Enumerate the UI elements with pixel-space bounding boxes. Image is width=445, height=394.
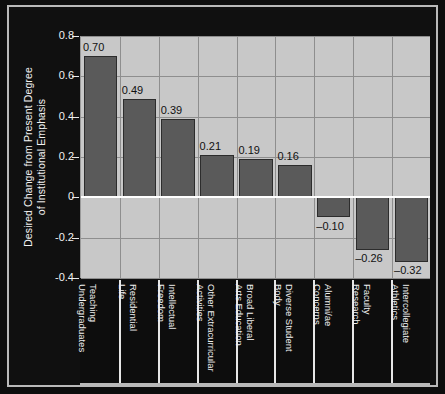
category-label-line: Life <box>117 284 128 384</box>
y-axis-tick-label: 0.8 <box>34 30 74 41</box>
category-label-line: Broad Liberal <box>245 284 256 384</box>
bar[interactable] <box>395 197 428 262</box>
bar-value-label: 0.16 <box>277 151 298 162</box>
category-label-cell: TeachingUndergraduates <box>80 280 119 383</box>
category-label-line: Undergraduates <box>77 284 88 384</box>
category-label-line: Diverse Student <box>284 284 295 384</box>
category-label-line: Freedom <box>156 284 167 384</box>
bar-slot: –0.26 <box>353 36 392 278</box>
bar[interactable] <box>123 99 156 198</box>
category-label-line: Intellectual <box>167 284 178 384</box>
bar-slot: 0.49 <box>120 36 159 278</box>
bar-value-label: –0.32 <box>394 265 422 276</box>
category-label: Diverse StudentBody <box>273 284 295 384</box>
category-label-line: Body <box>273 284 284 384</box>
category-label-line: Athletics <box>390 284 401 384</box>
bar-value-label: –0.26 <box>355 253 383 264</box>
bar[interactable] <box>239 159 272 197</box>
bar-slot: 0.39 <box>159 36 198 278</box>
category-label-line: Other Extracurricular <box>206 284 217 384</box>
bar-slot: –0.10 <box>314 36 353 278</box>
category-label: ResidentialLife <box>117 284 139 384</box>
y-axis-tick-label: -0.2 <box>34 232 74 243</box>
y-axis-tick-label: 0.4 <box>34 111 74 122</box>
bar[interactable] <box>278 165 311 197</box>
category-label-cell: Broad LiberalArts Education <box>236 280 275 383</box>
bar-value-label: 0.49 <box>122 85 143 96</box>
category-label-line: Research <box>351 284 362 384</box>
bar[interactable] <box>317 197 350 217</box>
category-label: TeachingUndergraduates <box>77 284 99 384</box>
gridline-horizontal <box>81 278 430 279</box>
bar[interactable] <box>84 56 117 197</box>
category-label-line: Teaching <box>88 284 99 384</box>
bar-slot: –0.32 <box>392 36 431 278</box>
bar[interactable] <box>356 197 389 249</box>
category-label-cell: FacultyResearch <box>352 280 391 383</box>
y-axis-tick-label: 0.2 <box>34 151 74 162</box>
category-label-panel: TeachingUndergraduatesResidentialLifeInt… <box>80 280 430 383</box>
category-label-cell: IntercollegiateAthletics <box>391 280 430 383</box>
bar-slot: 0.19 <box>237 36 276 278</box>
category-label-cell: ResidentialLife <box>119 280 158 383</box>
category-label: IntercollegiateAthletics <box>390 284 412 384</box>
plot-area: 0.700.490.390.210.190.16–0.10–0.26–0.32 <box>80 36 430 278</box>
category-label-cell: Alumni/aeConcerns <box>313 280 352 383</box>
y-axis-tick-label: 0.6 <box>34 70 74 81</box>
bar-slot: 0.21 <box>198 36 237 278</box>
bar[interactable] <box>200 155 233 197</box>
category-label: Broad LiberalArts Education <box>234 284 256 384</box>
bar[interactable] <box>161 119 194 198</box>
bar-value-label: –0.10 <box>316 221 344 232</box>
category-label: FacultyResearch <box>351 284 373 384</box>
bar-slot: 0.16 <box>275 36 314 278</box>
category-label-line: Residential <box>128 284 139 384</box>
category-label: Other ExtracurricularActivities <box>195 284 217 384</box>
y-axis-tick-label: -0.4 <box>34 272 74 283</box>
category-label-cell: IntellectualFreedom <box>158 280 197 383</box>
bar-value-label: 0.21 <box>200 141 221 152</box>
category-label-line: Faculty <box>362 284 373 384</box>
category-label-line: Arts Education <box>234 284 245 384</box>
category-label-cell: Diverse StudentBody <box>274 280 313 383</box>
bar-value-label: 0.39 <box>161 105 182 116</box>
y-axis-tick-label: 0 <box>34 191 74 202</box>
category-label-line: Intercollegiate <box>401 284 412 384</box>
zero-baseline <box>81 196 430 198</box>
category-label-line: Concerns <box>312 284 323 384</box>
category-label-cell: Other ExtracurricularActivities <box>197 280 236 383</box>
bar-value-label: 0.19 <box>238 145 259 156</box>
category-label: IntellectualFreedom <box>156 284 178 384</box>
bar-slot: 0.70 <box>81 36 120 278</box>
category-label-line: Alumni/ae <box>323 284 334 384</box>
category-label: Alumni/aeConcerns <box>312 284 334 384</box>
category-label-line: Activities <box>195 284 206 384</box>
chart-figure: Desired Change from Present Degree of In… <box>0 0 445 394</box>
y-axis-title-line1: Desired Change from Present Degree <box>22 67 34 247</box>
bar-value-label: 0.70 <box>83 42 104 53</box>
category-panel-baseline <box>80 383 430 385</box>
